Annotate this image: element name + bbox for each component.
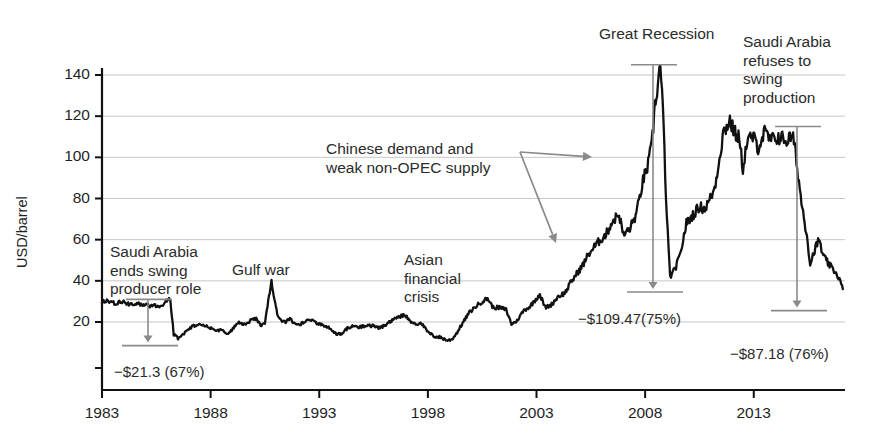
annotation-great-recession: Great Recession: [599, 25, 714, 44]
y-tick-label: 60: [40, 230, 90, 248]
annotation-chinese-demand: Chinese demand and weak non-OPEC supply: [326, 140, 491, 177]
x-tick-label: 1988: [185, 404, 237, 422]
x-tick-label: 2013: [728, 404, 780, 422]
drop-brackets: [122, 65, 827, 346]
oil-price-chart: USD/barrel 14012010080604020 19831988199…: [0, 0, 879, 446]
x-tick-label: 2008: [619, 404, 671, 422]
label-drop-2014: −$87.18 (76%): [730, 345, 829, 362]
arrow-chinese-demand-lower: [520, 152, 557, 243]
price-line: [102, 65, 843, 341]
y-tick-label: 80: [40, 189, 90, 207]
annotation-asian-financial-crisis: Asian financial crisis: [404, 251, 461, 307]
y-tick-label: 40: [40, 271, 90, 289]
y-tick-label: 140: [40, 65, 90, 83]
series-path: [102, 65, 843, 341]
x-tick-label: 1998: [402, 404, 454, 422]
bracket-2014: [771, 126, 827, 310]
bracket-2008: [627, 65, 683, 292]
annotation-arrows: [520, 152, 592, 243]
x-tick-label: 1993: [293, 404, 345, 422]
x-tick-label: 1983: [76, 404, 128, 422]
y-axis-title: USD/barrel: [14, 196, 30, 268]
arrow-chinese-demand-upper: [520, 152, 592, 161]
y-tick-label: 100: [40, 147, 90, 165]
gridlines: [102, 75, 845, 322]
y-tick-label: 120: [40, 106, 90, 124]
label-drop-1986: −$21.3 (67%): [114, 363, 204, 380]
x-tick-label: 2003: [511, 404, 563, 422]
annotation-saudi-ends-swing: Saudi Arabia ends swing producer role: [110, 243, 201, 299]
annotation-gulf-war: Gulf war: [232, 261, 290, 280]
annotation-saudi-refuses: Saudi Arabia refuses to swing production: [743, 33, 831, 107]
label-drop-2008: −$109.47(75%): [578, 310, 681, 327]
y-tick-label: 20: [40, 312, 90, 330]
